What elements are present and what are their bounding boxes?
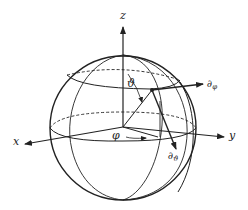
- z-axis-label: z: [120, 10, 126, 21]
- d-phi-subscript: φ: [212, 83, 217, 91]
- d-theta-subscript: ϑ: [173, 155, 178, 163]
- sphere-diagram: z x y ϑ φ ∂φ ∂ϑ: [0, 0, 248, 210]
- sphere-drawing: [0, 0, 248, 210]
- radius-vector: [123, 90, 152, 127]
- equator-front: [50, 128, 196, 141]
- y-axis-label: y: [229, 130, 235, 141]
- d-theta-label: ∂ϑ: [168, 151, 178, 163]
- d-phi-vector: [152, 84, 203, 90]
- phi-angle-label: φ: [112, 130, 120, 141]
- d-phi-label: ∂φ: [207, 79, 217, 91]
- sphere-rim: [178, 82, 193, 192]
- theta-angle-label: ϑ: [127, 78, 135, 89]
- x-axis-label: x: [13, 136, 19, 147]
- phi-arc: [126, 137, 146, 138]
- y-axis: [123, 127, 224, 137]
- meridian-front: [70, 55, 123, 200]
